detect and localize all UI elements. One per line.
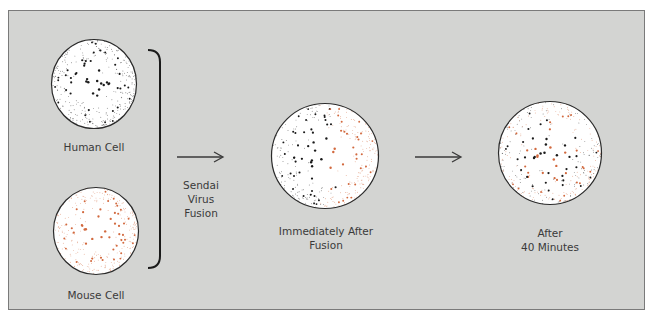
grouping-bracket (146, 48, 166, 270)
immediate-fusion-label: Immediately After Fusion (266, 224, 386, 252)
human-cell-label: Human Cell (54, 140, 134, 154)
mouse-cell (52, 186, 140, 276)
after-40-minutes-label: After 40 Minutes (510, 226, 590, 254)
mouse-cell-label: Mouse Cell (56, 288, 136, 302)
human-cell (50, 38, 138, 130)
arrow-right-icon (414, 151, 464, 163)
arrow-right-icon (176, 151, 226, 163)
sendai-fusion-label: Sendai Virus Fusion (175, 178, 227, 220)
fused-cell-40-minutes (497, 100, 603, 206)
fused-cell-immediate (270, 102, 380, 210)
